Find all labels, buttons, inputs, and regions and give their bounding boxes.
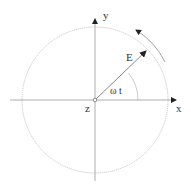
vector-label: E xyxy=(126,51,133,63)
z-axis-label: z xyxy=(85,102,90,114)
y-axis-label: y xyxy=(103,9,109,21)
angle-arc xyxy=(129,73,139,100)
x-axis-label: x xyxy=(176,102,182,114)
origin-z-marker-icon xyxy=(93,98,97,102)
rotating-field-diagram: y x z E ω t xyxy=(0,0,191,189)
rotation-direction-arrow xyxy=(136,30,165,62)
angle-label: ω t xyxy=(110,85,122,96)
